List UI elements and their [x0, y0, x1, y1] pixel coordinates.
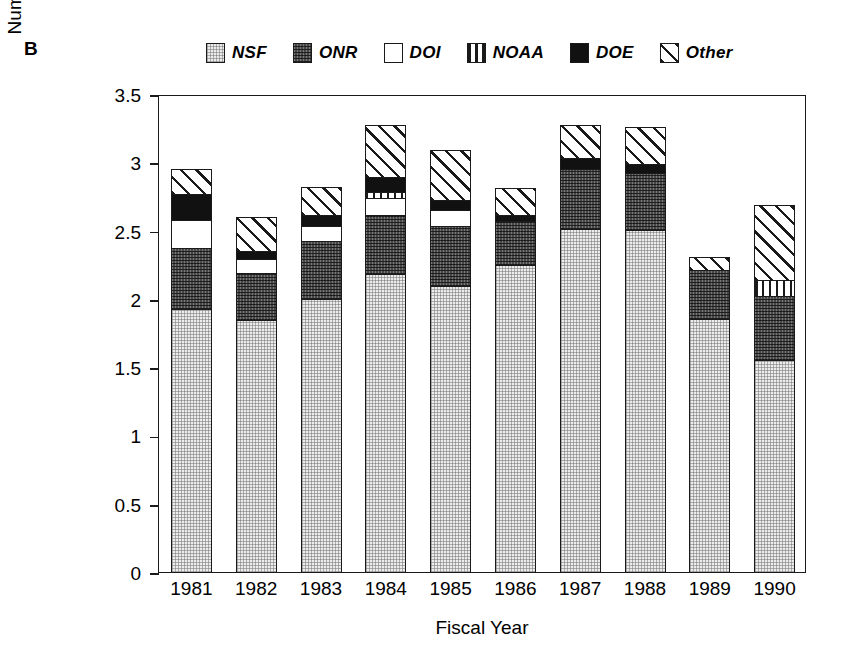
y-axis-tick-mark	[150, 232, 159, 234]
y-axis-tick: 0.5	[98, 495, 159, 517]
x-axis-title: Fiscal Year	[158, 617, 806, 639]
legend-label: ONR	[319, 43, 358, 63]
y-axis-tick-label: 3	[98, 153, 150, 175]
legend-item-other: Other	[660, 43, 733, 63]
bar-segment-nsf	[172, 310, 211, 572]
legend-label: Other	[686, 43, 733, 63]
x-axis-tick-label: 1983	[300, 578, 342, 600]
y-axis-tick: 1.5	[98, 358, 159, 380]
legend-item-doe: DOE	[570, 43, 634, 63]
x-axis-tick-label: 1982	[235, 578, 277, 600]
y-axis-tick: 3.5	[98, 85, 159, 107]
x-axis-tick-label: 1989	[689, 578, 731, 600]
y-axis-tick-label: 3.5	[98, 85, 150, 107]
bar-segment-onr	[302, 242, 341, 299]
legend-swatch-onr-icon	[293, 43, 312, 63]
bar-segment-doi	[431, 211, 470, 227]
bar-segment-other	[302, 188, 341, 217]
y-axis-tick-mark	[150, 95, 159, 97]
bar-segment-nsf	[366, 275, 405, 572]
y-axis-tick-mark	[150, 437, 159, 439]
legend-item-onr: ONR	[293, 43, 358, 63]
bar-segment-onr	[237, 274, 276, 322]
bar-segment-other	[626, 128, 665, 165]
bar-segment-onr	[431, 227, 470, 287]
bar-segment-nsf	[690, 320, 729, 572]
plot-area: 00.511.522.533.5198119821983198419851986…	[158, 95, 806, 573]
bar-segment-nsf	[755, 361, 794, 572]
bar-segment-nsf	[302, 300, 341, 572]
y-axis-tick: 2	[98, 290, 159, 312]
y-axis-tick-mark	[150, 573, 159, 575]
bar-segment-other	[172, 170, 211, 195]
legend-label: DOE	[596, 43, 634, 63]
bar-segment-other	[561, 126, 600, 159]
y-axis-tick-label: 2	[98, 290, 150, 312]
y-axis-title: Number of Operational Days (thousands)	[0, 0, 56, 153]
bar-segment-onr	[690, 271, 729, 320]
bar-segment-doe	[431, 201, 470, 211]
bar-segment-nsf	[626, 231, 665, 572]
bar-segment-doi	[302, 227, 341, 242]
bar-1988	[625, 127, 666, 572]
bar-segment-onr	[755, 297, 794, 361]
legend-label: NSF	[232, 43, 267, 63]
x-axis-tick-label: 1981	[170, 578, 212, 600]
bar-segment-nsf	[431, 287, 470, 572]
legend-swatch-doi-icon	[384, 43, 403, 63]
bar-segment-doi	[172, 221, 211, 250]
legend-item-noaa: NOAA	[467, 43, 544, 63]
bars-layer	[159, 96, 805, 572]
bar-1986	[495, 188, 536, 572]
bar-segment-other	[431, 151, 470, 201]
bar-1983	[301, 187, 342, 572]
y-axis-tick-label: 0	[98, 563, 150, 585]
bar-segment-nsf	[496, 266, 535, 573]
legend-swatch-doe-icon	[570, 43, 589, 63]
bar-segment-onr	[626, 174, 665, 231]
y-axis-tick-label: 1.5	[98, 358, 150, 380]
bar-segment-doe	[626, 165, 665, 175]
y-axis-tick-label: 1	[98, 426, 150, 448]
bar-segment-onr	[561, 170, 600, 230]
bar-segment-onr	[172, 249, 211, 310]
chart-figure: B NSFONRDOINOAADOEOther Number of Operat…	[0, 0, 848, 669]
legend-swatch-nsf-icon	[206, 43, 225, 63]
bar-segment-onr	[366, 216, 405, 275]
bar-1989	[689, 257, 730, 572]
x-axis-tick-label: 1985	[429, 578, 471, 600]
panel-label: B	[24, 38, 38, 60]
bar-segment-nsf	[561, 230, 600, 572]
bar-segment-other	[496, 189, 535, 216]
x-axis-tick-label: 1988	[624, 578, 666, 600]
bar-segment-other	[690, 258, 729, 272]
y-axis-tick-mark	[150, 163, 159, 165]
bar-segment-doe	[172, 195, 211, 221]
y-axis-tick-mark	[150, 300, 159, 302]
bar-segment-doi	[366, 199, 405, 217]
y-axis-tick-mark	[150, 368, 159, 370]
legend-item-nsf: NSF	[206, 43, 267, 63]
bar-segment-doe	[561, 159, 600, 170]
legend-label: DOI	[410, 43, 441, 63]
bar-1982	[236, 217, 277, 572]
legend-swatch-other-icon	[660, 43, 679, 63]
bar-segment-other	[237, 218, 276, 252]
bar-segment-nsf	[237, 321, 276, 572]
bar-1985	[430, 150, 471, 572]
chart-legend: NSFONRDOINOAADOEOther	[206, 40, 806, 66]
bar-segment-other	[366, 126, 405, 178]
bar-segment-doi	[237, 260, 276, 274]
legend-swatch-noaa-icon	[467, 43, 486, 63]
y-axis-title-line-1: Number of Operational Days	[2, 0, 27, 34]
bar-segment-doe	[237, 252, 276, 260]
bar-segment-onr	[496, 222, 535, 266]
y-axis-tick-mark	[150, 505, 159, 507]
legend-item-doi: DOI	[384, 43, 441, 63]
y-axis-tick: 3	[98, 153, 159, 175]
bar-1984	[365, 125, 406, 572]
bar-1981	[171, 169, 212, 572]
bar-segment-doe	[302, 216, 341, 227]
x-axis-tick-label: 1984	[365, 578, 407, 600]
y-axis-tick: 0	[98, 563, 159, 585]
